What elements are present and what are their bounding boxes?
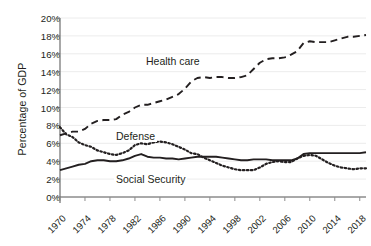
plot-area (0, 0, 371, 246)
series-annotation-defense: Defense (114, 130, 157, 142)
chart-figure: Percentage of GDP 20%18%16%14%12%10%8%6%… (0, 0, 371, 246)
series-line-defense (60, 127, 366, 170)
series-line-health-care (60, 35, 366, 135)
series-annotation-health-care: Health care (144, 55, 202, 67)
series-annotation-social-security: Social Security (114, 173, 187, 185)
